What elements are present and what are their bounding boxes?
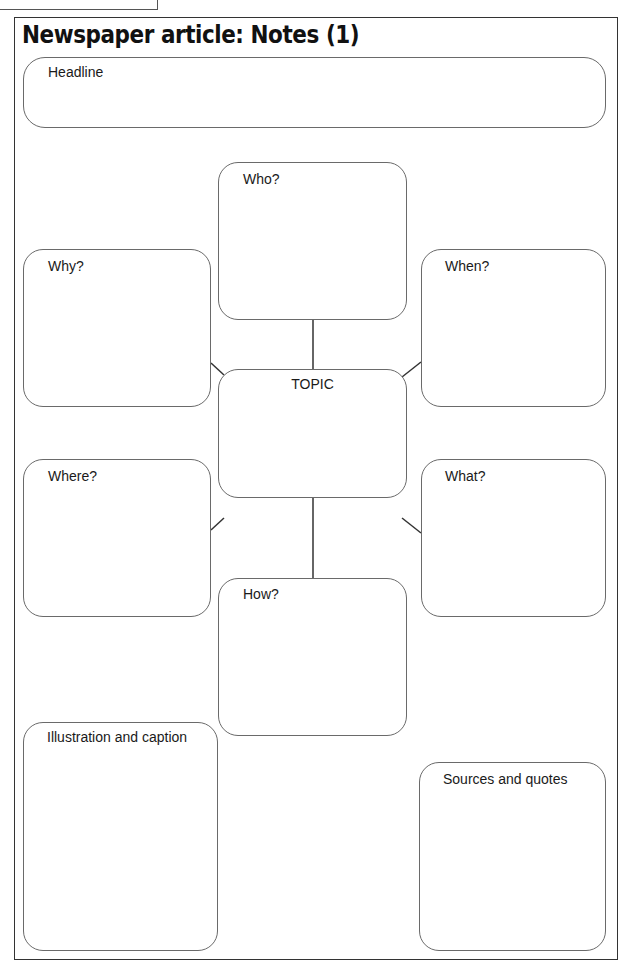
- connector-when-topic: [402, 362, 421, 377]
- why-label: Why?: [48, 258, 84, 274]
- connector-what-topic: [402, 518, 421, 533]
- topic-label: TOPIC: [219, 376, 406, 392]
- why-box[interactable]: Why?: [23, 249, 211, 407]
- headline-box[interactable]: Headline: [23, 57, 606, 128]
- illustration-label: Illustration and caption: [47, 729, 187, 745]
- how-box[interactable]: How?: [218, 578, 407, 736]
- who-label: Who?: [243, 171, 280, 187]
- illustration-box[interactable]: Illustration and caption: [23, 722, 218, 951]
- topic-box[interactable]: TOPIC: [218, 369, 407, 498]
- what-label: What?: [445, 468, 485, 484]
- what-box[interactable]: What?: [421, 459, 606, 617]
- when-box[interactable]: When?: [421, 249, 606, 407]
- headline-label: Headline: [48, 64, 103, 80]
- sources-box[interactable]: Sources and quotes: [419, 762, 606, 951]
- sources-label: Sources and quotes: [443, 771, 568, 787]
- connector-why-topic: [211, 363, 224, 375]
- how-label: How?: [243, 586, 279, 602]
- when-label: When?: [445, 258, 489, 274]
- connector-where-topic: [211, 518, 224, 530]
- where-label: Where?: [48, 468, 97, 484]
- where-box[interactable]: Where?: [23, 459, 211, 617]
- who-box[interactable]: Who?: [218, 162, 407, 320]
